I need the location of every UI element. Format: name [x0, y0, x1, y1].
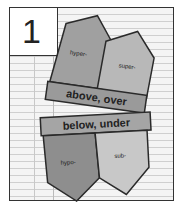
hypo-pentagon	[43, 133, 100, 203]
hypo-label: hypo-	[60, 159, 75, 166]
bottom-flap: below, under hypo- sub-	[40, 112, 154, 203]
sub-label: sub-	[114, 152, 126, 159]
sub-pentagon	[95, 130, 150, 196]
foldable-drawing: hyper- super- above, over below, under h…	[0, 0, 182, 214]
top-flap: hyper- super- above, over	[45, 10, 159, 113]
